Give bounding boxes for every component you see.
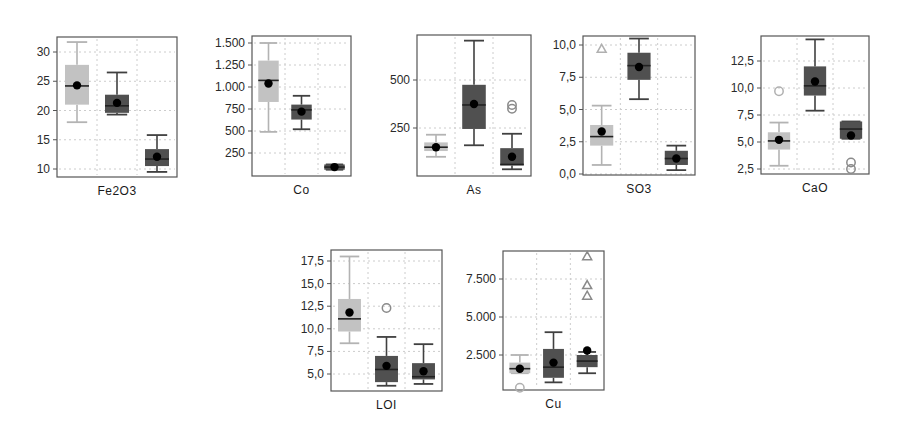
box-group-1 [338, 256, 361, 343]
box-group-3 [840, 121, 862, 173]
box-group-3 [665, 146, 688, 171]
panel-cu: 2.5005.0007.500Cu [466, 251, 604, 411]
panel-so3: 0,02,55,07,510,0SO3 [553, 36, 695, 196]
y-tick-label: 10,0 [301, 322, 325, 336]
y-tick-label: 250 [225, 146, 245, 160]
box-group-3 [412, 344, 435, 384]
y-tick-label: 10,0 [553, 38, 577, 52]
mean-marker [549, 358, 557, 366]
mean-marker [432, 143, 440, 151]
box-group-2 [105, 72, 129, 114]
box-group-1 [590, 44, 613, 165]
box-group-2 [375, 304, 398, 386]
y-tick-label: 2,5 [559, 135, 576, 149]
x-axis-label: Fe2O3 [97, 184, 136, 198]
box-group-3 [500, 101, 524, 170]
outlier-circle [382, 304, 390, 312]
box-group-2 [627, 39, 650, 100]
y-tick-label: 5,0 [737, 135, 754, 149]
box-group-1 [509, 355, 530, 392]
panel-cao: 2,55,07,510,012,5CaO [731, 36, 869, 195]
outlier-triangle [583, 252, 592, 260]
mean-marker [847, 131, 855, 139]
mean-marker [419, 367, 427, 375]
y-tick-label: 12,5 [301, 299, 325, 313]
mean-marker [516, 364, 524, 372]
mean-marker [73, 81, 81, 89]
mean-marker [345, 308, 353, 316]
y-tick-label: 30 [37, 45, 51, 59]
mean-marker [635, 63, 643, 71]
y-tick-label: 2,5 [737, 162, 754, 176]
y-tick-label: 17,5 [301, 254, 325, 268]
y-tick-label: 5,0 [559, 103, 576, 117]
mean-marker [264, 79, 272, 87]
outlier-triangle [597, 44, 606, 52]
y-tick-label: 2.500 [466, 348, 496, 362]
mean-marker [672, 154, 680, 162]
mean-marker [113, 99, 121, 107]
outlier-triangle [583, 291, 592, 299]
mean-marker [297, 107, 305, 115]
box-group-3 [324, 163, 344, 171]
boxplot-figure: 1015202530Fe2O32505007501.0001.2501.500C… [0, 0, 898, 432]
x-axis-label: Cu [545, 397, 561, 411]
mean-marker [470, 100, 478, 108]
mean-marker [382, 362, 390, 370]
y-tick-label: 500 [225, 124, 245, 138]
box-group-1 [768, 87, 790, 166]
y-tick-label: 10 [37, 162, 51, 176]
mean-marker [597, 127, 605, 135]
y-tick-label: 7,5 [307, 344, 324, 358]
mean-marker [811, 77, 819, 85]
box-group-2 [462, 41, 486, 146]
y-tick-label: 20 [37, 104, 51, 118]
outlier-circle [516, 383, 524, 391]
box-group-1 [424, 135, 448, 157]
panel-co: 2505007501.0001.2501.500Co [215, 36, 351, 197]
outlier-triangle [583, 281, 592, 289]
mean-marker [775, 136, 783, 144]
box-group-3 [577, 252, 598, 374]
panel-loi: 5,07,510,012,515,017,5LOI [301, 250, 442, 412]
mean-marker [583, 346, 591, 354]
y-tick-label: 750 [225, 102, 245, 116]
box-group-2 [543, 332, 564, 382]
y-tick-label: 7,5 [737, 108, 754, 122]
y-tick-label: 1.000 [215, 80, 245, 94]
y-tick-label: 12,5 [731, 54, 755, 68]
box-group-2 [291, 96, 311, 129]
panel-fe2o3: 1015202530Fe2O3 [37, 37, 177, 198]
y-tick-label: 25 [37, 74, 51, 88]
mean-marker [153, 153, 161, 161]
box-group-3 [145, 135, 169, 172]
y-tick-label: 1.250 [215, 58, 245, 72]
x-axis-label: Co [293, 183, 309, 197]
y-tick-label: 10,0 [731, 81, 755, 95]
panel-as: 250500As [390, 35, 531, 197]
mean-marker [330, 163, 338, 171]
y-tick-label: 7,5 [559, 70, 576, 84]
y-tick-label: 250 [390, 121, 410, 135]
y-tick-label: 1.500 [215, 36, 245, 50]
y-tick-label: 500 [390, 73, 410, 87]
x-axis-label: CaO [802, 181, 828, 195]
y-tick-label: 15 [37, 133, 51, 147]
mean-marker [508, 153, 516, 161]
y-tick-label: 0,0 [559, 167, 576, 181]
x-axis-label: As [466, 183, 481, 197]
box-group-1 [258, 43, 278, 132]
x-axis-label: LOI [376, 398, 397, 412]
y-tick-label: 7.500 [466, 272, 496, 286]
y-tick-label: 15,0 [301, 277, 325, 291]
x-axis-label: SO3 [626, 182, 652, 196]
y-tick-label: 5.000 [466, 310, 496, 324]
y-tick-label: 5,0 [307, 367, 324, 381]
box-group-2 [804, 39, 826, 110]
